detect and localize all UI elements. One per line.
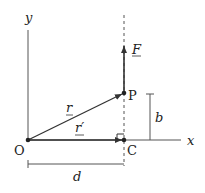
force-moment-diagram: y x O P C F r r′ b d: [0, 0, 205, 193]
x-axis-label: x: [187, 133, 195, 148]
origin-label: O: [14, 143, 25, 158]
vector-r-prime-label: r′: [75, 120, 84, 135]
point-p-label: P: [128, 88, 137, 103]
point-c-label: C: [127, 143, 137, 158]
distance-d-label: d: [73, 169, 81, 184]
point-c: [122, 138, 127, 143]
y-axis-label: y: [24, 10, 33, 25]
vector-r-label: r: [66, 100, 73, 115]
force-label: F: [131, 42, 142, 57]
origin-point: [26, 138, 31, 143]
point-p: [122, 91, 127, 96]
height-b-label: b: [155, 110, 163, 125]
